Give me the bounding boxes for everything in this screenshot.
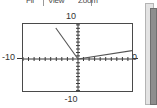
menu-separator [43, 0, 44, 6]
graph-panel: 10 -10 10 -10 [0, 7, 142, 108]
y-axis-max-label: 10 [0, 11, 142, 21]
menu-bar: Fil View Zoom [0, 0, 142, 7]
plot-canvas [23, 24, 133, 92]
scrollbar-track[interactable] [145, 3, 154, 105]
plot-area[interactable] [22, 23, 133, 92]
curve-left-branch [56, 28, 78, 59]
vertical-scrollbar[interactable] [142, 0, 157, 108]
menu-item-zoom[interactable]: Zoom [78, 0, 98, 5]
scrollbar-thumb[interactable] [150, 8, 157, 105]
menu-item-file[interactable]: Fil [26, 0, 34, 5]
x-axis-min-label: -10 [2, 52, 15, 62]
menu-item-view[interactable]: View [48, 0, 64, 5]
y-axis-min-label: -10 [0, 94, 142, 104]
calculator-graph-window: Fil View Zoom 10 -10 10 -10 [0, 0, 157, 108]
x-axis-right-stub [133, 58, 138, 59]
